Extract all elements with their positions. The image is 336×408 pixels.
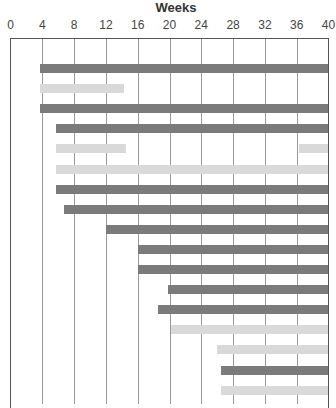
gridline [42,39,43,404]
task-bar [40,64,328,73]
task-bar [217,345,328,354]
task-bar [56,185,328,194]
task-bar [64,205,328,214]
x-tick-label: 20 [163,18,176,32]
task-bar [299,144,328,153]
gridline [138,39,139,404]
task-bar [106,225,328,234]
x-tick-label: 0 [7,18,14,32]
task-bar [138,265,328,274]
x-tick-label: 36 [290,18,303,32]
task-bar [221,366,328,375]
task-bar [171,325,328,334]
task-bar [56,144,126,153]
gridline [201,39,202,404]
x-tick-label: 8 [71,18,78,32]
gridline [74,39,75,404]
task-bar [168,285,328,294]
task-bar [40,104,328,113]
task-bar [158,305,328,314]
task-bar [56,165,328,174]
x-tick-label: 28 [226,18,239,32]
x-tick-label: 32 [258,18,271,32]
x-tick-label: 4 [39,18,46,32]
x-tick-label: 40 [322,18,335,32]
gridline [170,39,171,404]
task-bar [221,386,328,395]
task-bar [40,84,123,93]
x-tick-label: 16 [131,18,144,32]
task-bar [56,124,328,133]
chart-title: Weeks [0,0,336,16]
task-bar [138,245,328,254]
x-tick-label: 12 [99,18,112,32]
gridline [106,39,107,404]
x-tick-label: 24 [195,18,208,32]
